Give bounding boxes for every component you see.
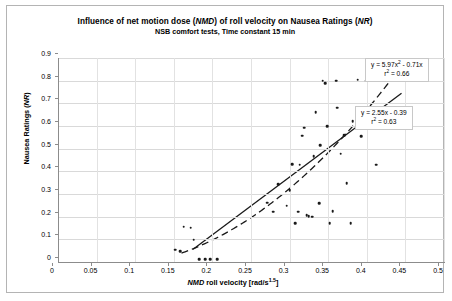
linear-r2-text: r2 = 0.63 <box>361 118 407 127</box>
x-axis-exponent: 1.5 <box>269 277 276 283</box>
data-point <box>356 78 359 81</box>
y-axis-tick <box>55 121 58 122</box>
chart-subtitle: NSB comfort tests, Time constant 15 min <box>7 27 443 37</box>
quadratic-equation-box: y = 5.97x2 - 0.71x r2 = 0.66 <box>365 58 429 82</box>
data-point <box>189 226 192 229</box>
y-axis-tick-label: 0.8 <box>29 72 51 79</box>
x-axis-tick-label: 0.25 <box>238 267 252 274</box>
data-point <box>315 111 318 114</box>
data-point <box>183 226 186 229</box>
x-axis-tick <box>91 263 92 266</box>
y-axis-tick-label: 0.1 <box>29 231 51 238</box>
x-axis-tick-label: 0.1 <box>124 267 134 274</box>
data-point <box>349 222 352 225</box>
y-axis-tick-label: 0.4 <box>29 163 51 170</box>
x-axis-tick-label: 0.15 <box>161 267 175 274</box>
y-axis-tick <box>55 53 58 54</box>
gridline-vertical <box>251 58 252 262</box>
quadratic-r2-text: r2 = 0.66 <box>371 70 423 79</box>
x-axis-tick <box>438 263 439 266</box>
data-point <box>326 125 329 128</box>
x-axis-tick-label: 0.45 <box>393 267 407 274</box>
data-point <box>312 155 315 158</box>
gridline-vertical <box>135 58 136 262</box>
chart-frame: Influence of net motion dose (NMD) of ro… <box>6 5 444 293</box>
data-point <box>294 222 297 225</box>
data-point <box>339 152 342 155</box>
y-axis-tick <box>55 98 58 99</box>
data-point <box>288 189 291 192</box>
y-axis-tick-label: 0.9 <box>29 50 51 57</box>
gridline-vertical <box>97 58 98 262</box>
data-point <box>335 79 338 82</box>
data-point <box>324 82 327 85</box>
data-point <box>318 202 321 205</box>
y-axis-tick <box>55 212 58 213</box>
data-point <box>285 204 288 207</box>
data-point <box>336 107 339 110</box>
data-point <box>198 258 201 261</box>
data-point <box>209 258 212 261</box>
y-axis-tick-label: 0.7 <box>29 95 51 102</box>
title-block: Influence of net motion dose (NMD) of ro… <box>7 16 443 37</box>
y-axis-tick <box>55 189 58 190</box>
x-axis-tick <box>361 263 362 266</box>
data-point <box>352 120 355 123</box>
data-point <box>216 258 219 261</box>
x-axis-line <box>58 262 445 263</box>
data-point <box>298 163 301 166</box>
x-axis-tick-label: 0.4 <box>356 267 366 274</box>
y-axis-tick <box>55 257 58 258</box>
data-point <box>193 238 196 241</box>
data-point <box>332 210 335 213</box>
x-axis-tick <box>206 263 207 266</box>
x-axis-tick-label: 0.2 <box>202 267 212 274</box>
x-axis-tick <box>245 263 246 266</box>
data-point <box>360 135 363 138</box>
data-point <box>375 163 378 166</box>
gridline-vertical <box>328 58 329 262</box>
gridline-vertical <box>444 58 445 262</box>
data-point <box>345 182 348 185</box>
data-point <box>319 144 322 147</box>
plot-area <box>58 58 444 262</box>
data-point <box>179 250 182 253</box>
data-point <box>328 222 331 225</box>
x-axis-tick <box>129 263 130 266</box>
x-axis-tick <box>322 263 323 266</box>
y-axis-tick <box>55 76 58 77</box>
x-axis-tick <box>52 263 53 266</box>
data-point <box>297 210 300 213</box>
gridline-vertical <box>212 58 213 262</box>
data-point <box>174 248 177 251</box>
linear-equation-text: y = 2.55x - 0.39 <box>361 109 407 118</box>
x-axis-tick <box>284 263 285 266</box>
data-point <box>311 215 314 218</box>
y-axis-tick-label: 0 <box>29 254 51 261</box>
y-axis-line <box>58 58 59 263</box>
x-axis-tick-label: 0.35 <box>315 267 329 274</box>
data-point <box>272 210 275 213</box>
x-axis-tick-label: 0 <box>50 267 54 274</box>
data-point <box>204 258 207 261</box>
linear-equation-box: y = 2.55x - 0.39 r2 = 0.63 <box>355 106 413 130</box>
data-point <box>266 201 269 204</box>
y-axis-tick-label: 0.2 <box>29 208 51 215</box>
quadratic-equation-text: y = 5.97x2 - 0.71x <box>371 61 423 70</box>
data-point <box>291 163 294 166</box>
y-axis-tick <box>55 234 58 235</box>
chart-title: Influence of net motion dose (NMD) of ro… <box>7 16 443 27</box>
data-point <box>301 134 304 137</box>
gridline-vertical <box>367 58 368 262</box>
data-point <box>343 134 346 137</box>
gridline-vertical <box>405 58 406 262</box>
x-axis-tick-label: 0.3 <box>279 267 289 274</box>
data-point <box>277 183 280 186</box>
y-axis-tick-label: 0.5 <box>29 140 51 147</box>
y-axis-tick <box>55 144 58 145</box>
gridline-vertical <box>174 58 175 262</box>
data-point <box>303 127 306 130</box>
x-axis-tick-label: 0.5 <box>433 267 443 274</box>
x-axis-tick-label: 0.05 <box>84 267 98 274</box>
y-axis-tick <box>55 166 58 167</box>
